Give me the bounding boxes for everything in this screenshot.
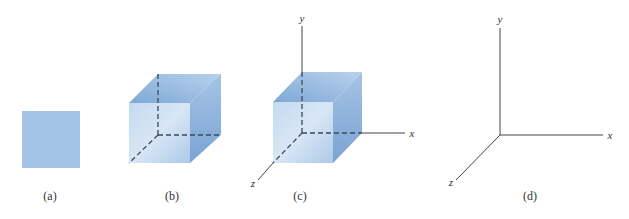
y-axis-label: y bbox=[299, 12, 305, 24]
panel-b: (b) bbox=[129, 74, 221, 203]
x-axis-label: x bbox=[409, 127, 415, 139]
figure-canvas: (a) (b) y x z ( bbox=[0, 0, 629, 219]
z-axis-label: z bbox=[250, 177, 256, 189]
square-shape bbox=[22, 111, 80, 168]
caption-a: (a) bbox=[43, 189, 56, 203]
z-axis-label: z bbox=[448, 176, 454, 188]
panel-a: (a) bbox=[22, 111, 80, 203]
panel-d: y x z (d) bbox=[448, 13, 613, 203]
panel-c: y x z (c) bbox=[250, 12, 415, 203]
x-axis-label: x bbox=[607, 129, 613, 141]
y-axis-label: y bbox=[497, 13, 503, 25]
caption-d: (d) bbox=[523, 189, 537, 203]
z-axis bbox=[456, 135, 500, 180]
z-axis bbox=[258, 163, 273, 180]
caption-b: (b) bbox=[165, 189, 179, 203]
caption-c: (c) bbox=[293, 189, 306, 203]
